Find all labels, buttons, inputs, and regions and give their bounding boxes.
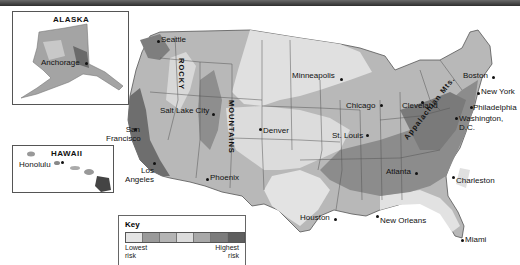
city-washington: Washington, D.C. bbox=[459, 114, 511, 132]
miami-dot bbox=[461, 239, 464, 242]
city-denver: Denver bbox=[263, 126, 289, 135]
city-houston: Houston bbox=[300, 213, 330, 222]
label-mountains: MOUNTAINS bbox=[227, 100, 236, 154]
swatch-4 bbox=[177, 233, 194, 242]
city-minneapolis: Minneapolis bbox=[292, 71, 335, 80]
swatch-3 bbox=[160, 233, 177, 242]
swatch-2 bbox=[143, 233, 160, 242]
hawaii-shape bbox=[13, 146, 113, 192]
city-chicago: Chicago bbox=[346, 101, 375, 110]
swatch-7 bbox=[228, 233, 244, 242]
city-seattle: Seattle bbox=[161, 35, 186, 44]
los-angeles-dot bbox=[153, 162, 156, 165]
city-washington-label: Washington, D.C. bbox=[459, 114, 511, 132]
city-st-louis: St. Louis bbox=[332, 131, 363, 140]
honolulu-dot bbox=[61, 161, 64, 164]
chicago-dot bbox=[380, 104, 383, 107]
city-cleveland: Cleveland bbox=[402, 101, 438, 110]
swatch-1 bbox=[126, 233, 143, 242]
swatch-5 bbox=[194, 233, 211, 242]
key-highest-risk: Highest risk bbox=[215, 244, 239, 260]
hawaii-inset: HAWAII Honolulu bbox=[12, 145, 114, 193]
city-san-francisco: San Francisco bbox=[106, 125, 140, 143]
new-orleans-dot bbox=[376, 215, 379, 218]
salt-lake-city-dot bbox=[212, 113, 215, 116]
city-miami: Miami bbox=[465, 235, 486, 244]
city-los-angeles-label: Los Angeles bbox=[124, 166, 154, 184]
map-key: Key Lowest risk Highest risk bbox=[118, 215, 246, 265]
city-los-angeles: Los Angeles bbox=[124, 166, 154, 184]
key-title: Key bbox=[125, 220, 140, 229]
label-rocky: ROCKY bbox=[177, 58, 186, 90]
seattle-dot bbox=[157, 40, 160, 43]
anchorage-dot bbox=[85, 62, 88, 65]
houston-dot bbox=[334, 218, 337, 221]
city-san-francisco-label: San Francisco bbox=[106, 125, 140, 143]
key-swatches bbox=[125, 232, 245, 243]
key-high-line2: risk bbox=[215, 252, 239, 260]
city-salt-lake-city: Salt Lake City bbox=[160, 106, 209, 115]
atlanta-dot bbox=[415, 172, 418, 175]
alaska-inset: ALASKA Anchorage bbox=[12, 11, 129, 105]
minneapolis-dot bbox=[340, 78, 343, 81]
boston-dot bbox=[492, 76, 495, 79]
city-charleston: Charleston bbox=[456, 176, 495, 185]
city-atlanta: Atlanta bbox=[386, 167, 411, 176]
key-high-line1: Highest bbox=[215, 244, 239, 252]
city-boston: Boston bbox=[463, 71, 488, 80]
key-lowest-risk: Lowest risk bbox=[125, 244, 147, 260]
swatch-6 bbox=[211, 233, 228, 242]
city-honolulu: Honolulu bbox=[19, 160, 51, 169]
city-phoenix: Phoenix bbox=[210, 173, 239, 182]
new-york-dot bbox=[477, 92, 480, 95]
city-anchorage: Anchorage bbox=[41, 58, 80, 67]
city-new-orleans: New Orleans bbox=[380, 216, 426, 225]
charleston-dot bbox=[452, 176, 455, 179]
washington-dot bbox=[455, 117, 458, 120]
key-low-line1: Lowest bbox=[125, 244, 147, 252]
phoenix-dot bbox=[206, 178, 209, 181]
key-low-line2: risk bbox=[125, 252, 147, 260]
st-louis-dot bbox=[366, 134, 369, 137]
denver-dot bbox=[259, 128, 262, 131]
city-philadelphia: Philadelphia bbox=[473, 103, 517, 112]
city-new-york: New York bbox=[481, 87, 515, 96]
